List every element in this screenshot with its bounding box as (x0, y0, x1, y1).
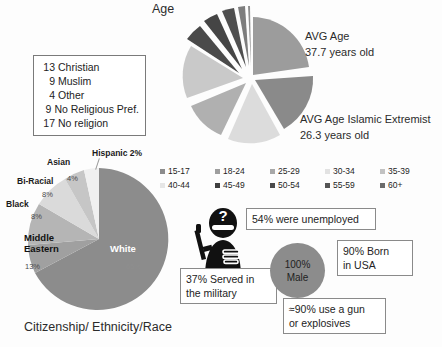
legend-swatch-icon (325, 183, 330, 188)
infographic-canvas: 13 Christian 9 Muslim 4 Other 9 No Relig… (0, 0, 442, 347)
religion-row: 9 Muslim (40, 74, 139, 88)
stat-born-usa-line-1: 90% Born (343, 244, 407, 258)
stat-box-weapon: ≈90% use a gun or explosives (283, 298, 386, 334)
legend-row-2: 40-44 45-49 50-54 55-59 60+ (160, 180, 438, 190)
ethnicity-label-hispanic: Hispanic 2% (92, 148, 142, 158)
age-chart-title: Age (152, 2, 174, 18)
ethnicity-label-middle-eastern: Middle Eastern (24, 233, 59, 255)
masked-head-icon: ? (209, 207, 237, 238)
avg-age-line-1: AVG Age (305, 29, 374, 45)
legend-item-35-39[interactable]: 35-39 (380, 166, 435, 176)
stat-box-unemployed: 54% were unemployed (246, 208, 376, 230)
age-chart-legend: 15-17 18-24 25-29 30-34 35-39 40-44 (160, 166, 438, 194)
legend-swatch-icon (270, 183, 275, 188)
ethnicity-chart-title: Citizenship/ Ethnicity/Race (24, 320, 172, 336)
religion-count: 9 (40, 74, 55, 88)
male-percentage-value: 100% (285, 258, 311, 271)
hand-icon (223, 250, 239, 263)
stat-born-usa-line-2: in USA (343, 258, 407, 272)
legend-swatch-icon (215, 169, 220, 174)
avg-age-line-2: 37.7 years old (305, 45, 374, 61)
religion-count: 13 (40, 60, 55, 74)
religion-row: 9 No Religious Pref. (40, 102, 139, 116)
religion-row: 17 No religion (40, 116, 139, 130)
religion-label: Christian (58, 60, 99, 74)
legend-label: 50-54 (278, 180, 300, 190)
ethnicity-label-black: Black (6, 199, 29, 209)
legend-label: 18-24 (223, 166, 245, 176)
ethnicity-pct-asian: 4% (67, 174, 78, 183)
legend-item-60-plus[interactable]: 60+ (380, 180, 435, 190)
age-slice-18-24 (253, 17, 309, 75)
legend-swatch-icon (215, 183, 220, 188)
legend-label: 45-49 (223, 180, 245, 190)
legend-swatch-icon (380, 169, 385, 174)
legend-item-25-29[interactable]: 25-29 (270, 166, 325, 176)
legend-item-55-59[interactable]: 55-59 (325, 180, 380, 190)
religion-row: 4 Other (40, 88, 139, 102)
male-percentage-label: Male (287, 271, 309, 284)
avg-age-extremist-line-1: AVG Age Islamic Extremist (300, 112, 431, 128)
question-mark-glyph: ? (218, 207, 227, 224)
ethnicity-pct-black: 8% (31, 212, 42, 221)
legend-label: 25-29 (278, 166, 300, 176)
stat-weapon-line-2: or explosives (289, 316, 380, 330)
ethnicity-label-white: White (110, 243, 136, 254)
avg-age-extremist-line-2: 26.3 years old (300, 128, 431, 144)
legend-item-45-49[interactable]: 45-49 (215, 180, 270, 190)
ethnicity-label-middle-eastern-line-2: Eastern (24, 244, 59, 255)
legend-label: 55-59 (333, 180, 355, 190)
ethnicity-pct-white: 65% (126, 262, 141, 271)
legend-item-18-24[interactable]: 18-24 (215, 166, 270, 176)
age-slice-15-17 (248, 6, 251, 66)
religion-count: 9 (40, 102, 51, 116)
legend-item-30-34[interactable]: 30-34 (325, 166, 380, 176)
ethnicity-pct-middle-eastern: 13% (25, 262, 40, 271)
religion-label: No religion (58, 116, 108, 130)
religion-count: 17 (40, 116, 55, 130)
legend-item-50-54[interactable]: 50-54 (270, 180, 325, 190)
stat-military-line-2: the military (186, 286, 271, 300)
stat-weapon-line-1: ≈90% use a gun (289, 302, 380, 316)
legend-label: 30-34 (333, 166, 355, 176)
age-distribution-pie (178, 8, 316, 158)
stat-box-military: 37% Served in the military (180, 268, 277, 304)
stat-box-born-usa: 90% Born in USA (337, 240, 413, 276)
ethnicity-label-biracial: Bi-Racial (17, 176, 53, 186)
male-percentage-badge: 100% Male (270, 243, 325, 298)
legend-swatch-icon (270, 169, 275, 174)
religion-row: 13 Christian (40, 60, 139, 74)
avg-age-extremist-callout: AVG Age Islamic Extremist 26.3 years old (300, 112, 431, 144)
religion-count: 4 (40, 88, 55, 102)
legend-row-1: 15-17 18-24 25-29 30-34 35-39 (160, 166, 438, 176)
stat-military-line-1: 37% Served in (186, 272, 271, 286)
ethnicity-pct-biracial: 8% (42, 190, 53, 199)
religion-label: No Religious Pref. (54, 102, 139, 116)
legend-swatch-icon (380, 183, 385, 188)
religion-label: Muslim (58, 74, 91, 88)
age-pie-slices (183, 6, 313, 143)
avg-age-callout: AVG Age 37.7 years old (305, 29, 374, 61)
legend-swatch-icon (325, 169, 330, 174)
religion-breakdown-box: 13 Christian 9 Muslim 4 Other 9 No Relig… (33, 55, 146, 136)
legend-label: 60+ (388, 180, 402, 190)
religion-label: Other (58, 88, 84, 102)
ethnicity-label-asian: Asian (47, 157, 70, 167)
legend-label: 35-39 (388, 166, 410, 176)
